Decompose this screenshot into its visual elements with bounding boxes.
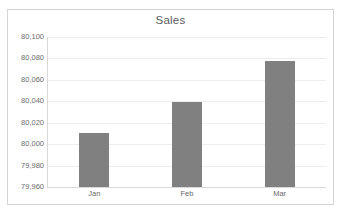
x-axis-tick-label: Feb [141,190,234,198]
y-axis-tick-label: 79,980 [8,162,44,170]
y-axis-tick-label: 80,060 [8,76,44,84]
y-axis-tick-label: 80,000 [8,140,44,148]
y-axis-tick-label: 80,040 [8,97,44,105]
gridline [48,187,326,188]
x-axis-tick-labels: JanFebMar [48,190,326,204]
y-axis-tick-labels: 80,10080,08080,06080,04080,02080,00079,9… [8,37,44,187]
y-axis-tick-label: 80,100 [8,33,44,41]
x-axis-tick-label: Mar [233,190,326,198]
chart-title: Sales [8,14,333,26]
bar-mar[interactable] [265,61,295,187]
plot-area [48,37,326,187]
gridline [48,37,326,38]
gridline [48,58,326,59]
bar-feb[interactable] [172,102,202,187]
y-axis-tick-label: 79,960 [8,183,44,191]
x-axis-tick-label: Jan [48,190,141,198]
bar-jan[interactable] [79,133,109,187]
chart-container[interactable]: Sales 80,10080,08080,06080,04080,02080,0… [7,9,334,205]
y-axis-tick-label: 80,080 [8,54,44,62]
y-axis-tick-label: 80,020 [8,119,44,127]
